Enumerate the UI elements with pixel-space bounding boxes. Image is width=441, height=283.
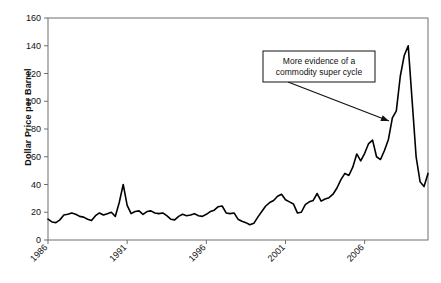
x-tick-label: 1991	[107, 242, 128, 263]
x-tick-label: 2001	[266, 242, 287, 263]
x-tick-label: 1996	[187, 242, 208, 263]
annotation-text-line1: More evidence of a	[283, 56, 356, 66]
annotation-text-line2: commodity super cycle	[276, 67, 363, 77]
chart-canvas: 020406080100120140160 198619911996200120…	[0, 0, 441, 283]
x-tick-label: 1986	[28, 242, 49, 263]
x-axis-ticks: 19861991199620012006	[28, 240, 366, 264]
y-axis-label: Dollar Price per Barrel	[23, 37, 33, 197]
oil-price-chart-figure: Dollar Price per Barrel 0204060801001201…	[0, 0, 441, 283]
y-tick-label: 20	[31, 207, 41, 217]
x-tick-label: 2006	[345, 242, 366, 263]
y-tick-label: 160	[26, 13, 41, 23]
